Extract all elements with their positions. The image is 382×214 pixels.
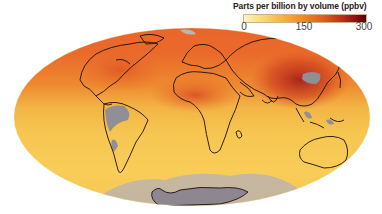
globe-surface <box>0 0 382 214</box>
world-ozone-map <box>0 0 382 214</box>
